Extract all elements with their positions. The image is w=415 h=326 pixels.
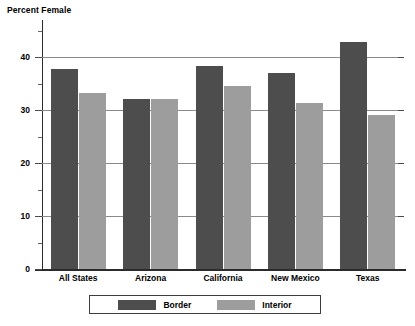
category-label-all-states: All States [59, 273, 98, 283]
bar-border-california [196, 66, 223, 269]
legend: BorderInterior [89, 295, 321, 314]
y-axis-tick-label: 0 [6, 264, 30, 274]
category-label-new-mexico: New Mexico [271, 273, 320, 283]
legend-label-interior: Interior [262, 300, 291, 310]
bar-border-new-mexico [268, 73, 295, 269]
y-axis-tick-major [35, 57, 42, 58]
y-axis-tick-label: 40 [6, 52, 30, 62]
y-axis-tick-label: 10 [6, 211, 30, 221]
bar-border-all-states [51, 69, 78, 269]
y-axis-tick-major [35, 216, 42, 217]
bar-interior-california [224, 86, 251, 269]
legend-swatch-border [118, 300, 156, 310]
y-axis-tick-major [35, 110, 42, 111]
bar-interior-all-states [79, 93, 106, 269]
y-axis-tick-label: 30 [6, 105, 30, 115]
bar-interior-new-mexico [296, 103, 323, 269]
legend-entry-interior[interactable]: Interior [217, 300, 291, 310]
x-axis-line [35, 269, 406, 271]
legend-label-border: Border [163, 300, 191, 310]
legend-swatch-interior [217, 300, 255, 310]
category-label-arizona: Arizona [135, 273, 166, 283]
category-label-california: California [203, 273, 242, 283]
bar-border-arizona [123, 99, 150, 269]
bar-interior-arizona [151, 99, 178, 269]
bar-border-texas [340, 42, 367, 269]
y-axis-tick-major [35, 269, 42, 270]
bar-chart: Percent Female 010203040 All StatesArizo… [0, 0, 415, 326]
category-label-texas: Texas [356, 273, 379, 283]
plot-area [42, 20, 404, 269]
y-axis-tick-major [35, 163, 42, 164]
bar-interior-texas [368, 115, 395, 269]
legend-entry-border[interactable]: Border [118, 300, 191, 310]
y-axis-tick-label: 20 [6, 158, 30, 168]
y-axis-title: Percent Female [7, 5, 71, 15]
